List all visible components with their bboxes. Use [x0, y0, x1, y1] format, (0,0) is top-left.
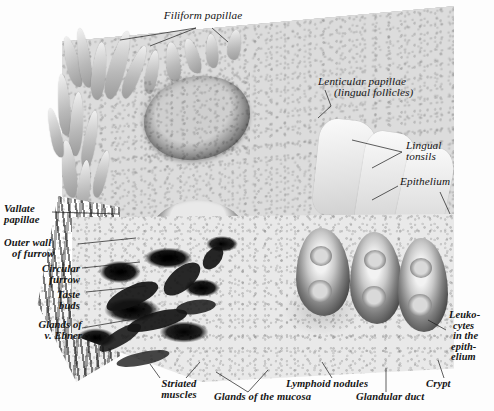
label-crypt: Crypt [426, 379, 451, 390]
figure-canvas: Filiform papillae Lenticular papillae (l… [0, 0, 494, 411]
label-lenticular-papillae: Lenticular papillae (lingual follicles) [318, 76, 474, 99]
vallate-papilla-surface-view [144, 71, 250, 164]
label-leukocytes-line5: elium [451, 352, 494, 363]
label-glands-ebner-line2: v. Ebner [6, 331, 82, 342]
label-taste-buds: Taste buds [14, 290, 80, 312]
label-epithelium: Epithelium [400, 176, 450, 187]
label-vallate-papillae: Vallate papillae [4, 204, 82, 226]
label-outer-wall-line2: of furrow [12, 249, 80, 260]
label-glands-of-the-mucosa: Glands of the mucosa [214, 392, 311, 403]
label-filiform-papillae: Filiform papillae [150, 10, 256, 21]
label-glandular-duct: Glandular duct [356, 392, 424, 403]
label-taste-buds-line2: buds [14, 301, 80, 312]
label-lymphoid-nodules: Lymphoid nodules [286, 379, 368, 390]
label-vallate-line2: papillae [4, 215, 82, 226]
label-striated-muscles-line2: muscles [140, 390, 218, 401]
label-outer-wall-of-furrow: Outer wall of furrow [4, 238, 80, 260]
label-leukocytes-in-epithelium: Leuko- cytes in the epith- elium [449, 310, 494, 363]
label-circular-furrow: Circular furrow [10, 264, 80, 286]
label-glands-of-v-ebner: Glands of v. Ebner [6, 320, 82, 342]
label-circular-furrow-line2: furrow [10, 275, 80, 286]
label-striated-muscles: Striated muscles [140, 379, 218, 401]
label-lenticular-line2: (lingual follicles) [334, 87, 474, 98]
label-lingual-tonsils-line2: tonsils [406, 151, 486, 162]
label-lingual-tonsils: Lingual tonsils [406, 140, 486, 163]
